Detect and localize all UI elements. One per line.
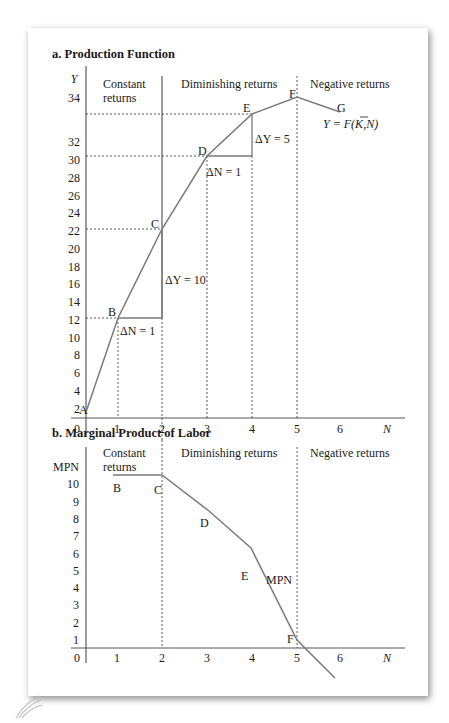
svg-text:F: F — [289, 87, 296, 101]
svg-text:E: E — [241, 569, 248, 583]
svg-text:F: F — [287, 632, 294, 646]
svg-text:5: 5 — [294, 651, 300, 665]
svg-text:8: 8 — [73, 512, 79, 526]
svg-text:24: 24 — [68, 206, 80, 220]
svg-text:1: 1 — [114, 651, 120, 665]
svg-text:12: 12 — [68, 313, 80, 327]
chart-a-production-curve — [86, 97, 340, 412]
svg-text:3: 3 — [73, 598, 79, 612]
svg-text:B: B — [113, 481, 121, 495]
svg-text:D: D — [198, 144, 207, 158]
svg-text:N: N — [382, 651, 392, 665]
chart-b-region-negative: Negative returns — [310, 446, 390, 460]
chart-a-delta-y-5: ΔY = 5 — [255, 132, 290, 146]
chart-production-function: a. Production Function Y 2 4 6 8 10 12 1… — [52, 47, 405, 440]
chart-a-y-ticks: 2 4 6 8 10 12 14 16 18 20 22 24 26 28 30… — [68, 91, 80, 416]
svg-text:10: 10 — [67, 477, 79, 491]
chart-marginal-product: b. Marginal Product of Labor MPN 1 2 3 4… — [52, 426, 405, 678]
svg-text:0: 0 — [74, 651, 80, 665]
svg-text:6: 6 — [73, 547, 79, 561]
chart-b-region-constant: Constant — [103, 446, 146, 460]
svg-text:28: 28 — [68, 171, 80, 185]
chart-a-delta-n-1: ΔN = 1 — [120, 324, 155, 338]
svg-text:N: N — [382, 422, 392, 436]
svg-text:34: 34 — [68, 91, 80, 105]
svg-text:G: G — [337, 101, 346, 115]
chart-b-point-labels: B C D E F — [113, 481, 294, 646]
chart-a-guides — [86, 76, 297, 440]
chart-a-delta-steps — [118, 114, 252, 318]
chart-a-curve-label: Y = F(K,N) — [323, 117, 378, 131]
svg-text:4: 4 — [74, 384, 80, 398]
chart-a-y-label: Y — [71, 72, 79, 86]
svg-text:D: D — [200, 516, 209, 530]
svg-text:4: 4 — [73, 581, 79, 595]
chart-a-region-negative: Negative returns — [310, 77, 390, 91]
svg-text:7: 7 — [73, 529, 79, 543]
svg-text:30: 30 — [68, 153, 80, 167]
figure-svg: a. Production Function Y 2 4 6 8 10 12 1… — [0, 0, 449, 723]
svg-text:6: 6 — [337, 422, 343, 436]
svg-text:4: 4 — [249, 651, 255, 665]
chart-b-y-label: MPN — [53, 460, 79, 474]
svg-text:C: C — [151, 217, 159, 231]
svg-text:A: A — [79, 403, 88, 417]
chart-b-region-diminishing: Diminishing returns — [181, 446, 278, 460]
svg-text:C: C — [154, 483, 162, 497]
svg-text:6: 6 — [74, 366, 80, 380]
chart-a-point-labels: A B C D E F G — [79, 87, 346, 417]
svg-text:5: 5 — [294, 422, 300, 436]
chart-b-curve-label: MPN — [266, 573, 292, 587]
svg-text:5: 5 — [73, 564, 79, 578]
svg-text:10: 10 — [68, 331, 80, 345]
chart-b-region-constant-2: returns — [103, 460, 137, 474]
svg-text:B: B — [108, 305, 116, 319]
svg-text:14: 14 — [68, 295, 80, 309]
chart-b-guides — [162, 440, 297, 648]
chart-b-title: b. Marginal Product of Labor — [52, 426, 212, 440]
chart-b-y-ticks: 1 2 3 4 5 6 7 8 9 10 — [67, 477, 79, 647]
svg-text:9: 9 — [73, 495, 79, 509]
svg-text:16: 16 — [68, 277, 80, 291]
svg-text:20: 20 — [68, 242, 80, 256]
chart-a-title: a. Production Function — [52, 47, 175, 61]
chart-a-delta-y-10: ΔY = 10 — [165, 273, 206, 287]
svg-text:4: 4 — [249, 422, 255, 436]
svg-text:3: 3 — [204, 651, 210, 665]
chart-a-region-constant-2: returns — [103, 91, 137, 105]
chart-a-region-constant: Constant — [103, 77, 146, 91]
chart-a-region-diminishing: Diminishing returns — [181, 77, 278, 91]
svg-text:32: 32 — [68, 135, 80, 149]
chart-a-delta-n-2: ΔN = 1 — [206, 165, 241, 179]
svg-text:18: 18 — [68, 260, 80, 274]
chart-b-x-ticks: 0 1 2 3 4 5 6 N — [74, 651, 392, 665]
swirl-decoration-icon — [14, 694, 44, 720]
svg-text:8: 8 — [74, 348, 80, 362]
svg-text:E: E — [243, 101, 250, 115]
svg-text:2: 2 — [159, 651, 165, 665]
svg-text:1: 1 — [73, 633, 79, 647]
svg-text:26: 26 — [68, 189, 80, 203]
svg-text:22: 22 — [68, 224, 80, 238]
svg-text:2: 2 — [73, 616, 79, 630]
svg-text:6: 6 — [337, 651, 343, 665]
